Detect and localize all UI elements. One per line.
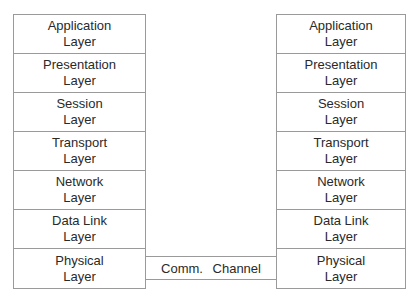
layer-suffix: Layer: [63, 112, 96, 128]
comm-channel: Comm. Channel: [146, 256, 276, 280]
layer-name: Presentation: [43, 57, 116, 73]
layer-name: Session: [56, 96, 102, 112]
layer-name: Application: [309, 18, 373, 34]
right-osi-stack: Application Layer Presentation Layer Ses…: [276, 14, 406, 289]
left-transport-layer: Transport Layer: [14, 132, 145, 171]
layer-suffix: Layer: [325, 112, 358, 128]
right-application-layer: Application Layer: [277, 15, 405, 54]
layer-suffix: Layer: [325, 229, 358, 245]
layer-suffix: Layer: [63, 73, 96, 89]
left-data-link-layer: Data Link Layer: [14, 210, 145, 249]
layer-suffix: Layer: [63, 190, 96, 206]
layer-suffix: Layer: [325, 190, 358, 206]
layer-suffix: Layer: [325, 269, 358, 285]
left-network-layer: Network Layer: [14, 171, 145, 210]
layer-name: Data Link: [314, 213, 369, 229]
layer-name: Physical: [55, 253, 103, 269]
layer-suffix: Layer: [63, 34, 96, 50]
right-presentation-layer: Presentation Layer: [277, 54, 405, 93]
layer-name: Application: [48, 18, 112, 34]
left-osi-stack: Application Layer Presentation Layer Ses…: [13, 14, 146, 289]
right-transport-layer: Transport Layer: [277, 132, 405, 171]
layer-suffix: Layer: [325, 34, 358, 50]
right-physical-layer: Physical Layer: [277, 249, 405, 288]
right-network-layer: Network Layer: [277, 171, 405, 210]
layer-name: Network: [317, 174, 365, 190]
layer-name: Network: [56, 174, 104, 190]
left-presentation-layer: Presentation Layer: [14, 54, 145, 93]
layer-suffix: Layer: [325, 73, 358, 89]
layer-name: Physical: [317, 253, 365, 269]
layer-name: Data Link: [52, 213, 107, 229]
right-session-layer: Session Layer: [277, 93, 405, 132]
left-application-layer: Application Layer: [14, 15, 145, 54]
layer-suffix: Layer: [63, 269, 96, 285]
layer-suffix: Layer: [325, 151, 358, 167]
layer-name: Session: [318, 96, 364, 112]
layer-suffix: Layer: [63, 151, 96, 167]
left-physical-layer: Physical Layer: [14, 249, 145, 288]
layer-name: Transport: [313, 135, 368, 151]
layer-name: Presentation: [305, 57, 378, 73]
right-data-link-layer: Data Link Layer: [277, 210, 405, 249]
layer-suffix: Layer: [63, 229, 96, 245]
comm-channel-label: Comm. Channel: [161, 261, 261, 276]
left-session-layer: Session Layer: [14, 93, 145, 132]
layer-name: Transport: [52, 135, 107, 151]
